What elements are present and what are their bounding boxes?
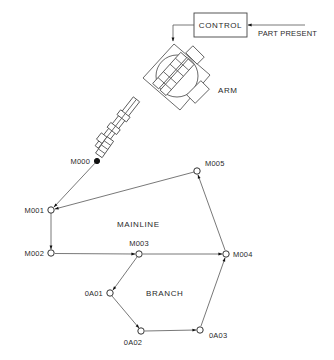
- edge-m000-m001: [54, 161, 97, 207]
- branch-label: BRANCH: [146, 289, 183, 298]
- node-0a01[interactable]: [107, 290, 113, 296]
- edge-0a02-0a03: [145, 330, 196, 331]
- control-output-line: [173, 25, 194, 41]
- mainline-label: MAINLINE: [117, 220, 160, 229]
- node-m005[interactable]: [194, 168, 200, 174]
- label-m002: M002: [24, 249, 44, 258]
- edge-m003-0a01: [113, 257, 137, 290]
- node-m001[interactable]: [48, 207, 54, 213]
- robot-arm-icon: ARM: [93, 44, 238, 158]
- edge-m005-m001: [55, 172, 194, 209]
- edge-0a03-m004: [201, 258, 225, 326]
- label-m004: M004: [233, 250, 253, 259]
- node-m003[interactable]: [136, 251, 142, 257]
- node-m000[interactable]: [94, 158, 99, 163]
- node-m004[interactable]: [223, 251, 229, 257]
- label-0a02: 0A02: [124, 338, 142, 347]
- edge-m002-m003: [55, 254, 135, 255]
- arm-label: ARM: [218, 86, 238, 95]
- node-0a02[interactable]: [138, 328, 144, 334]
- node-0a03[interactable]: [197, 327, 203, 333]
- label-0a01: 0A01: [85, 289, 103, 298]
- edge-m004-m005: [198, 175, 225, 250]
- edge-0a01-0a02: [112, 296, 139, 328]
- label-m003: M003: [129, 239, 149, 248]
- part-present-label: PART PRESENT: [258, 29, 317, 38]
- robot-path-diagram: CONTROL PART PRESENT: [0, 0, 334, 360]
- node-m002[interactable]: [48, 250, 54, 256]
- label-m000: M000: [70, 157, 90, 166]
- control-block: CONTROL PART PRESENT: [173, 13, 317, 41]
- control-label: CONTROL: [199, 21, 242, 30]
- label-0a03: 0A03: [209, 331, 227, 340]
- label-m005: M005: [205, 159, 225, 168]
- label-m001: M001: [24, 206, 44, 215]
